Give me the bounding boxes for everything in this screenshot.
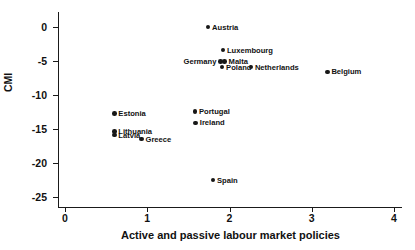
y-tick-mark	[53, 27, 58, 28]
data-point-label: Netherlands	[255, 64, 299, 72]
x-tick-label: 1	[135, 213, 159, 224]
y-tick-mark	[53, 95, 58, 96]
data-point-marker[interactable]	[325, 70, 330, 75]
data-point-label: Greece	[145, 136, 171, 144]
y-tick-label: -10	[32, 90, 47, 101]
y-tick-mark	[53, 197, 58, 198]
y-tick-label: -5	[38, 56, 47, 67]
y-tick-mark	[53, 163, 58, 164]
x-tick-label: 3	[300, 213, 324, 224]
y-axis-title: CMI	[2, 73, 14, 92]
x-tick-label: 2	[218, 213, 242, 224]
data-point-marker[interactable]	[112, 111, 117, 116]
data-point-label: Estonia	[118, 110, 145, 118]
data-point-label: Spain	[217, 177, 238, 185]
data-point-label: Ireland	[200, 119, 225, 127]
y-tick-mark	[53, 61, 58, 62]
x-axis-title: Active and passive labour market policie…	[0, 229, 415, 241]
scatter-chart-figure: 0-5-10-15-20-25 01234 CMI Active and pas…	[0, 0, 415, 250]
data-point-label: Latvia	[118, 132, 140, 140]
y-tick-mark	[53, 129, 58, 130]
data-point-marker[interactable]	[193, 109, 198, 114]
x-tick-label: 0	[53, 213, 77, 224]
data-point-label: Portugal	[199, 108, 230, 116]
data-point-label: Luxembourg	[227, 47, 273, 55]
y-tick-label: -15	[32, 124, 47, 135]
y-axis-line	[58, 12, 59, 207]
y-tick-label: 0	[41, 22, 47, 33]
data-point-label: Austria	[212, 24, 238, 32]
x-tick-label: 4	[382, 213, 406, 224]
data-point-label: Belgium	[331, 68, 361, 76]
data-point-marker[interactable]	[112, 133, 117, 138]
data-point-label: Poland	[226, 64, 251, 72]
data-point-label: Germany	[184, 58, 217, 66]
y-tick-label: -20	[32, 158, 47, 169]
data-point-marker[interactable]	[218, 59, 223, 64]
y-tick-label: -25	[32, 192, 47, 203]
